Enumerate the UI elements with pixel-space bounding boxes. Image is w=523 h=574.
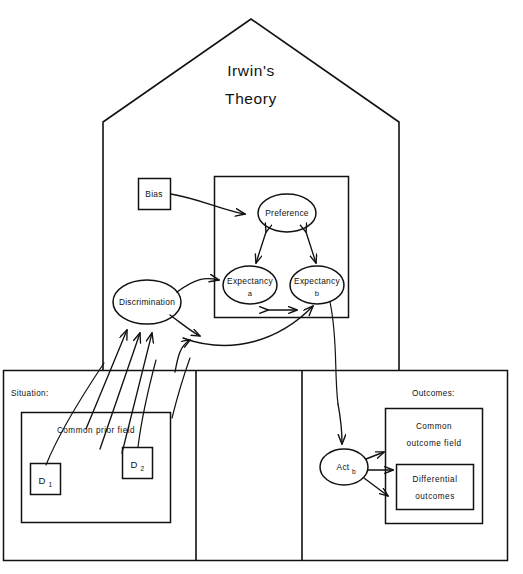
common-outcome-field-line-1: Common [416,422,452,431]
irwins-theory-diagram: Irwin's Theory Situation: Common prior f… [0,0,523,574]
title-line-1: Irwin's [227,62,275,79]
expectancy-b-label: Expectancy [294,276,340,286]
diagram-canvas: Irwin's Theory Situation: Common prior f… [0,0,523,574]
discrimination-label: Discrimination [119,297,175,307]
d1-letter: D [39,475,46,486]
title-line-2: Theory [225,90,277,107]
differential-outcomes-line-1: Differential [413,475,458,484]
d1-box: D 1 [31,464,61,495]
expectancy-b-subscript: b [315,289,319,298]
figure-title: Irwin's Theory [225,62,277,107]
discrimination-to-lower-arrow [170,315,200,336]
common-prior-field-label: Common prior field [57,426,135,435]
d1-subscript: 1 [49,481,53,488]
bias-box: Bias [139,179,171,210]
differential-outcomes-box [397,465,474,510]
act-b-node: Act b [320,449,368,485]
discrimination-to-expectancy-a-arrow [177,279,219,292]
bias-label: Bias [145,189,162,199]
preference-label: Preference [265,208,309,218]
situation-heading: Situation: [11,389,49,398]
expectancy-a-subscript: a [248,289,253,298]
prior-field-to-discrimination-curve [175,340,190,372]
preference-node: Preference [258,194,316,232]
expectancy-b-node: Expectancy b [290,266,344,304]
common-outcome-field-line-2: outcome field [406,439,461,448]
outcomes-heading: Outcomes: [412,389,455,398]
act-b-subscript: b [352,468,356,475]
d2-box: D 2 [123,448,153,479]
act-b-label: Act [337,462,350,472]
expectancy-a-node: Expectancy a [223,266,277,304]
differential-outcomes-line-2: outcomes [415,492,455,501]
d2-letter: D [131,459,138,470]
discrimination-node: Discrimination [113,280,181,324]
expectancy-a-label: Expectancy [227,276,273,286]
d2-subscript: 2 [141,465,145,472]
